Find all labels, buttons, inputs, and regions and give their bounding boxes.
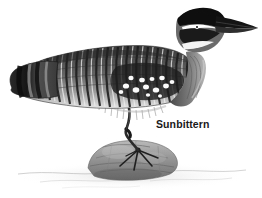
tail — [10, 61, 58, 98]
wing-patch — [111, 63, 184, 101]
bill — [215, 16, 258, 33]
rock — [88, 141, 177, 181]
species-label: Sunbittern — [156, 118, 210, 130]
illustration-scene: Sunbittern — [0, 0, 262, 198]
sunbittern-illustration — [0, 0, 262, 198]
